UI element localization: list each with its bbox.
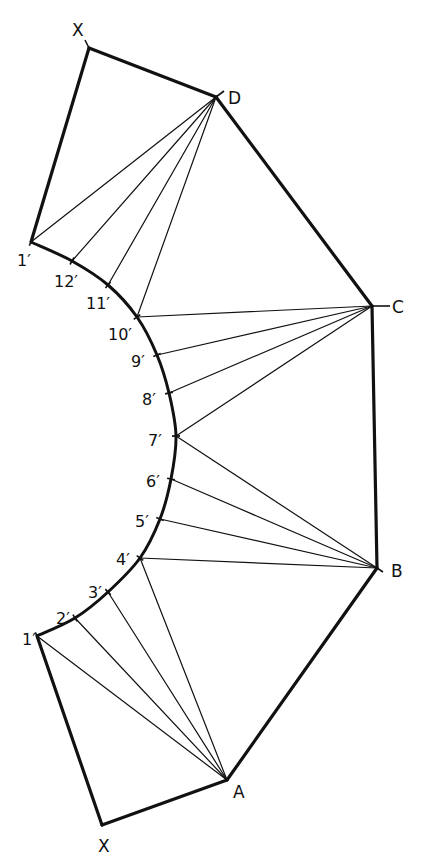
line-C-to-10 (137, 306, 372, 317)
line-B-to-7 (176, 436, 377, 568)
vertex-label-a: A (233, 782, 245, 802)
vertex-mark-X_top (85, 40, 89, 48)
edge-1_top-X_top (31, 48, 89, 242)
vertex-label-d: D (228, 88, 241, 108)
line-C-to-7 (176, 306, 372, 436)
arc-point-label-1_bottom: 1′ (22, 630, 36, 649)
line-D-to-12 (72, 97, 216, 261)
edge-A-X_bottom (102, 780, 227, 825)
line-A-to-3 (108, 592, 227, 780)
edge-B-A (227, 568, 377, 780)
arc-point-label-10: 10′ (108, 325, 132, 344)
arc-point-label-5: 5′ (135, 512, 149, 531)
arc-point-label-3: 3′ (88, 583, 102, 602)
vertex-label-x_top: X (72, 20, 84, 40)
point-labels: XDCBAX1′12′11′10′9′8′7′6′5′4′3′2′1′ (17, 20, 404, 856)
edge-X_top-D (89, 48, 216, 97)
edge-C-B (372, 306, 377, 568)
arc-point-label-11: 11′ (86, 294, 110, 313)
line-A-to-2 (75, 618, 227, 780)
tick-6 (167, 478, 175, 480)
vertex-label-x_bottom: X (98, 836, 110, 856)
arc-point-label-6: 6′ (146, 472, 160, 491)
line-B-to-6 (171, 479, 377, 568)
line-D-to-10 (137, 97, 216, 317)
tick-8 (165, 392, 173, 394)
arc-point-label-7: 7′ (148, 431, 162, 450)
line-C-to-8 (169, 306, 372, 393)
vertex-mark-B (377, 568, 383, 572)
arc-point-label-2: 2′ (56, 609, 70, 628)
arc-point-label-8: 8′ (142, 390, 156, 409)
line-D-to-1_top (31, 97, 216, 242)
vertex-mark-D (216, 91, 224, 97)
arc-point-label-1_top: 1′ (17, 251, 31, 270)
vertex-label-c: C (392, 297, 404, 317)
line-D-to-11 (108, 97, 216, 285)
vertex-label-b: B (391, 561, 403, 581)
edge-X_bottom-1_bottom (37, 636, 102, 825)
line-C-to-9 (157, 306, 372, 355)
arc-point-label-4: 4′ (116, 550, 130, 569)
pattern-outline (31, 40, 390, 825)
triangulation-lines (31, 97, 377, 780)
arc-point-label-12: 12′ (54, 272, 78, 291)
edge-D-C (216, 97, 372, 306)
pattern-development-diagram: XDCBAX1′12′11′10′9′8′7′6′5′4′3′2′1′ (0, 0, 424, 866)
arc-point-label-9: 9′ (131, 352, 145, 371)
